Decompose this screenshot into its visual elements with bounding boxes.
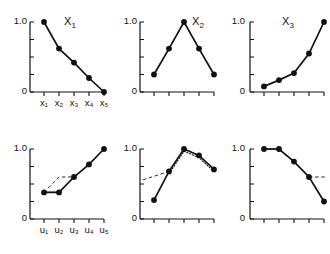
panel-title-x1: X1: [64, 15, 76, 30]
series-line-u2: [154, 149, 214, 200]
y-axis-label-zero-u2: 0: [110, 212, 137, 223]
series-line-x1: [44, 22, 104, 92]
panel-title-sub-x1: 1: [72, 21, 77, 30]
series-markers-u1: [41, 146, 107, 195]
series-line-x3: [264, 22, 324, 86]
y-axis-label-zero-x3: 0: [218, 85, 245, 96]
y-axis-label-top-x1: 1.0: [0, 15, 27, 26]
y-axis-label-zero-u1: 0: [0, 212, 27, 223]
series-markers-u3: [261, 146, 327, 204]
chart-panel-u2: 1.0 0: [110, 127, 220, 254]
series-line-u3: [264, 149, 324, 202]
y-axis-label-top-u2: 1.0: [110, 142, 137, 153]
axis-x1: [30, 22, 104, 96]
panel-title-base-x1: X: [64, 15, 72, 27]
series-line-u1: [44, 149, 104, 192]
chart-panel-x1: 1.0 0 X1 x₁ x₂ x₃ x₄ x₅: [0, 0, 110, 127]
series-markers-x2: [151, 19, 217, 77]
axis-u3: [250, 149, 324, 223]
panel-title-sub-x2: 2: [200, 21, 205, 30]
y-axis-label-top-u3: 1.0: [218, 142, 245, 153]
y-axis-label-zero-u3: 0: [218, 212, 245, 223]
chart-panel-x2: 1.0 0 X2: [110, 0, 220, 127]
y-axis-label-top-x3: 1.0: [218, 15, 245, 26]
chart-panel-u3: 1.0 0: [220, 127, 330, 254]
series-line-x2: [154, 22, 214, 75]
figure-panel-grid: 1.0 0 X1 x₁ x₂ x₃ x₄ x₅: [0, 0, 330, 254]
y-axis-label-top-u1: 1.0: [0, 142, 27, 153]
y-axis-label-zero-x2: 0: [110, 85, 137, 96]
panel-title-base-x2: X: [192, 15, 200, 27]
panel-title-x3: X3: [282, 15, 294, 30]
chart-panel-x3: 1.0 0 X3: [220, 0, 330, 127]
series-markers-u2: [151, 146, 217, 203]
y-axis-label-top-x2: 1.0: [110, 15, 137, 26]
chart-panel-u1: 1.0 0 u₁ u₂ u₃ u₄ u₅: [0, 127, 110, 254]
panel-title-base-x3: X: [282, 15, 290, 27]
series-markers-x1: [41, 19, 107, 95]
y-axis-label-zero-x1: 0: [0, 85, 27, 96]
panel-title-sub-x3: 3: [290, 21, 295, 30]
axis-x3: [250, 22, 324, 96]
panel-title-x2: X2: [192, 15, 204, 30]
